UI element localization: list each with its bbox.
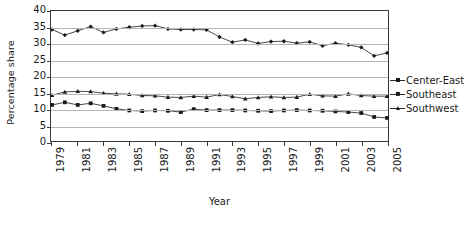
y-tick-label: 30 [33,38,46,48]
y-tick-mark [47,44,51,45]
x-tick-label: 2003 [366,147,377,172]
x-axis-title: Year [50,196,389,207]
y-axis-title: Percentage share [0,0,20,165]
data-point [101,30,105,34]
x-tick-label: 1985 [133,147,144,172]
y-tick-label: 15 [33,88,46,98]
x-tick-mark [129,142,130,146]
x-tick-label: 1981 [81,147,92,172]
y-tick-label: 35 [33,22,46,32]
plot-area [50,10,389,142]
data-point [63,100,67,104]
y-tick-mark [47,11,51,12]
data-point [102,104,106,108]
y-tick-label: 0 [40,137,46,147]
x-tick-mark [388,142,389,146]
x-tick-mark [77,142,78,146]
x-tick-label: 1999 [314,147,325,172]
x-tick-mark [155,142,156,146]
data-point [282,39,286,43]
x-tick-mark [232,142,233,146]
x-tick-label: 1991 [211,147,222,172]
y-tick-mark [47,127,51,128]
legend-item-label: Southeast [405,89,456,100]
x-tick-label: 1979 [55,147,66,172]
grid-line [51,28,388,29]
series-canvas [51,11,388,141]
x-tick-mark [310,142,311,146]
grid-line [51,61,388,62]
data-point [63,33,67,37]
y-axis-tick-labels: 0510152025303540 [20,10,50,142]
diamond-marker-icon [390,74,405,86]
y-tick-mark [47,61,51,62]
y-tick-mark [47,94,51,95]
data-point [359,111,363,115]
data-point [372,115,376,119]
x-tick-label: 2005 [392,147,403,172]
y-tick-label: 20 [33,71,46,81]
y-axis-title-text: Percentage share [5,40,16,124]
y-tick-label: 40 [33,5,46,15]
y-tick-mark [47,110,51,111]
x-tick-mark [258,142,259,146]
x-tick-mark [284,142,285,146]
x-tick-label: 1995 [262,147,273,172]
legend-item-southwest[interactable]: Southwest [390,101,473,115]
data-point [76,29,80,33]
x-tick-mark [181,142,182,146]
data-point [372,54,376,58]
series-line [52,26,387,56]
data-point [50,103,54,107]
data-point [385,116,389,120]
data-point [76,103,80,107]
y-tick-label: 25 [33,55,46,65]
grid-line [51,77,388,78]
data-point [359,45,363,49]
legend-item-southeast[interactable]: Southeast [390,87,473,101]
legend-item-label: Center-East [405,75,464,86]
grid-line [51,94,388,95]
x-tick-label: 1997 [288,147,299,172]
x-axis-tick-labels: 1979198119831985198719891991199319951997… [50,147,389,193]
legend-item-center-east[interactable]: Center-East [390,73,473,87]
data-point [89,101,93,105]
x-tick-mark [207,142,208,146]
x-tick-label: 1989 [185,147,196,172]
y-tick-mark [47,28,51,29]
square-marker-icon [390,88,405,100]
x-tick-label: 1987 [159,147,170,172]
grid-line [51,44,388,45]
y-tick-mark [47,77,51,78]
x-tick-mark [51,142,52,146]
legend-item-label: Southwest [405,103,459,114]
grid-line [51,127,388,128]
x-tick-mark [103,142,104,146]
chart-legend: Center-EastSoutheastSouthwest [390,73,473,115]
data-point [385,51,389,55]
y-tick-label: 10 [33,104,46,114]
data-point [217,35,221,39]
x-tick-label: 2001 [340,147,351,172]
x-tick-mark [336,142,337,146]
data-point [243,38,247,42]
x-tick-label: 1993 [236,147,247,172]
x-tick-mark [362,142,363,146]
triangle-marker-icon [390,102,405,114]
grid-line [51,110,388,111]
chart-figure: Percentage share 0510152025303540 197919… [0,0,473,225]
x-tick-label: 1983 [107,147,118,172]
y-tick-label: 5 [40,121,46,131]
